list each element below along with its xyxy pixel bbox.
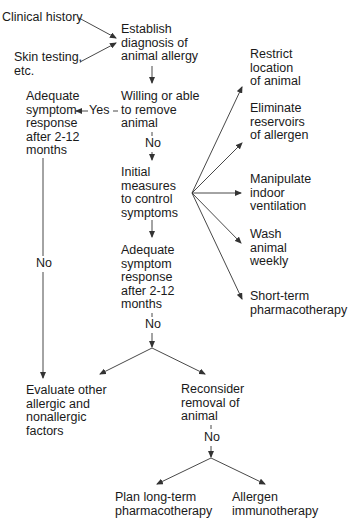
node-restrict-location: Restrict location of animal [250, 48, 301, 89]
arrow-skin-to-diagnosis [80, 43, 116, 62]
label-no-adequate-1: No [35, 257, 53, 270]
node-reconsider-removal: Reconsider removal of animal [181, 383, 244, 424]
node-clinical-history: Clinical history [2, 11, 83, 25]
node-eliminate-reservoirs: Eliminate reservoirs of allergen [250, 102, 308, 143]
node-wash-animal: Wash animal weekly [250, 228, 288, 269]
node-manipulate-ventilation: Manipulate indoor ventilation [250, 173, 311, 214]
label-no-willing: No [144, 137, 162, 150]
label-no-reconsider: No [203, 431, 221, 444]
node-plan-long-term: Plan long-term pharmacotherapy [115, 491, 212, 518]
arrow-initial-to-wash [192, 193, 241, 243]
arrow-clinical-to-diagnosis [79, 18, 116, 38]
node-evaluate-other: Evaluate other allergic and nonallergic … [26, 384, 107, 438]
node-adequate-response-1: Adequate symptom response after 2-12 mon… [26, 90, 80, 158]
node-initial-measures: Initial measures to control symptoms [121, 166, 178, 220]
arrow-split-to-reconsider [152, 348, 205, 374]
node-willing-remove: Willing or able to remove animal [121, 90, 200, 131]
node-establish-diagnosis: Establish diagnosis of animal allergy [121, 23, 198, 64]
node-allergen-immunotherapy: Allergen immunotherapy [232, 491, 318, 518]
node-short-term-pharmacotherapy: Short-term pharmacotherapy [250, 290, 347, 317]
node-adequate-response-2: Adequate symptom response after 2-12 mon… [121, 244, 175, 312]
node-skin-testing: Skin testing, etc. [14, 51, 82, 78]
arrow-split-to-immunotherapy [211, 458, 265, 484]
label-yes: Yes [88, 104, 110, 117]
arrow-initial-to-eliminate [192, 143, 242, 193]
arrow-split-to-evaluate [100, 348, 152, 374]
arrow-split-to-longterm [157, 458, 211, 484]
label-no-adequate-2: No [144, 318, 162, 331]
arrow-initial-to-shortterm [192, 193, 242, 299]
